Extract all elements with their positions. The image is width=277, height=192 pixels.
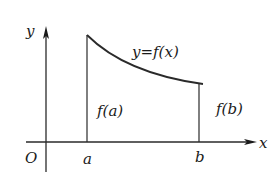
function-graph-diagram: y x O a b y=f(x) f(a) f(b) — [0, 0, 277, 192]
point-a-label: a — [83, 150, 92, 168]
point-b-label: b — [195, 148, 205, 166]
curve-label: y=f(x) — [131, 43, 179, 61]
fa-label: f(a) — [96, 102, 123, 120]
x-axis-label: x — [259, 134, 268, 152]
fb-label: f(b) — [215, 100, 243, 118]
y-axis-label: y — [25, 22, 35, 40]
origin-label: O — [25, 149, 37, 167]
